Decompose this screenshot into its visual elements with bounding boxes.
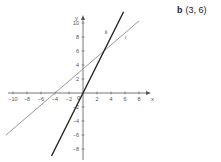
y-tick-label: 4 [76,62,79,68]
answer-value: (3, 6) [186,5,207,15]
answer: b(3, 6) [177,5,207,15]
x-tick-label: 6 [123,96,126,102]
graph: xy0−10−8−6−4−22468−8−6−4−2246810iii [0,0,160,162]
line-label-ii: ii [105,29,108,35]
answer-label: b [177,5,183,15]
x-axis-label: x [151,96,154,102]
x-tick-label: 2 [95,96,98,102]
x-tick-label: −2 [66,96,72,102]
y-tick-label: −8 [73,146,79,152]
y-axis-arrow-icon [81,15,85,20]
x-tick-label: −4 [52,96,58,102]
y-tick-label: 10 [73,20,79,26]
x-axis-arrow-icon [146,91,151,95]
y-tick-label: 6 [76,48,79,54]
y-tick-label: 8 [76,34,79,40]
y-tick-label: −6 [73,132,79,138]
x-tick-label: 8 [137,96,140,102]
x-tick-label: 4 [109,96,112,102]
line-label-i: i [125,34,126,40]
x-tick-label: −8 [24,96,30,102]
x-tick-label: −6 [38,96,44,102]
line-ii [52,12,124,156]
y-tick-label: 2 [76,76,79,82]
x-tick-label: −10 [8,96,17,102]
y-tick-label: −4 [73,118,79,124]
